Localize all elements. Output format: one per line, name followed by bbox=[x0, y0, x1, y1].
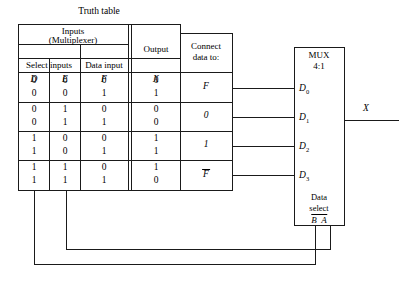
mux-data-input-subscript-3: 3 bbox=[306, 175, 309, 182]
mux-select-label-line1: Data bbox=[311, 193, 327, 202]
diagram-title: Truth table bbox=[78, 7, 120, 17]
cell-d-row1: 0 bbox=[32, 89, 37, 99]
mux-data-input-2: D2 bbox=[299, 142, 309, 153]
cell-f-row5: 1 bbox=[102, 147, 107, 157]
cell-e-row2: 1 bbox=[63, 105, 68, 115]
cell-d-row6: 1 bbox=[32, 163, 37, 173]
cell-x-row1: 1 bbox=[154, 89, 159, 99]
header-inputs-sub: (Multiplexer) bbox=[49, 36, 98, 45]
cell-x-row3: 0 bbox=[154, 118, 159, 128]
mux-data-input-subscript-1: 1 bbox=[306, 117, 309, 124]
cell-f-row1: 1 bbox=[102, 89, 107, 99]
cell-x-row2: 0 bbox=[154, 105, 159, 115]
cell-e-row5: 0 bbox=[63, 147, 68, 157]
connect-value-1: 0 bbox=[204, 111, 209, 121]
cell-x-row0: 0 bbox=[154, 76, 159, 86]
cell-d-row2: 0 bbox=[32, 105, 37, 115]
mux-output-label: X bbox=[363, 104, 369, 114]
cell-e-row1: 0 bbox=[63, 89, 68, 99]
cell-f-row0: 0 bbox=[102, 76, 107, 86]
mux-select-bus-inner: B A bbox=[311, 214, 327, 225]
mux-select-label-line2: select bbox=[309, 204, 328, 213]
header-connect: Connect bbox=[191, 42, 221, 51]
mux-data-input-subscript-2: 2 bbox=[306, 146, 309, 153]
cell-f-row4: 0 bbox=[102, 134, 107, 144]
header-data-input: Data input bbox=[85, 61, 123, 70]
overbar-3: F bbox=[202, 169, 210, 180]
connect-value-0: F bbox=[203, 82, 209, 92]
cell-d-row3: 0 bbox=[32, 118, 37, 128]
mux-data-input-0: D0 bbox=[299, 84, 309, 95]
cell-e-row4: 0 bbox=[63, 134, 68, 144]
header-output: Output bbox=[143, 45, 168, 54]
cell-d-row4: 1 bbox=[32, 134, 37, 144]
cell-e-row7: 1 bbox=[63, 176, 68, 186]
connect-value-3: F bbox=[202, 169, 210, 180]
cell-x-row5: 1 bbox=[154, 147, 159, 157]
mux-select-bus: B A bbox=[311, 214, 327, 225]
cell-e-row0: 0 bbox=[63, 76, 68, 86]
header-select-inputs: Select inputs bbox=[26, 61, 72, 70]
cell-d-row0: 0 bbox=[32, 76, 37, 86]
mux-ratio: 4:1 bbox=[313, 62, 325, 71]
cell-f-row7: 1 bbox=[102, 176, 107, 186]
cell-f-row6: 0 bbox=[102, 163, 107, 173]
cell-f-row2: 0 bbox=[102, 105, 107, 115]
cell-x-row6: 1 bbox=[154, 163, 159, 173]
mux-data-input-1: D1 bbox=[299, 113, 309, 124]
cell-x-row4: 1 bbox=[154, 134, 159, 144]
mux-select-signal-a: A bbox=[321, 215, 327, 225]
connect-value-2: 1 bbox=[204, 140, 209, 150]
select-routing-wires bbox=[35, 191, 331, 265]
cell-d-row7: 1 bbox=[32, 176, 37, 186]
mux-name: MUX bbox=[308, 51, 329, 60]
mux-select-signal-b: B bbox=[311, 215, 317, 225]
mux-data-input-3: D3 bbox=[299, 171, 309, 182]
cell-d-row5: 1 bbox=[32, 147, 37, 157]
cell-x-row7: 0 bbox=[154, 176, 159, 186]
diagram-root: Truth table Inputs (Multiplexer) Output … bbox=[0, 0, 401, 284]
cell-f-row3: 1 bbox=[102, 118, 107, 128]
data-input-wires bbox=[233, 89, 295, 176]
cell-e-row3: 1 bbox=[63, 118, 68, 128]
cell-e-row6: 1 bbox=[63, 163, 68, 173]
header-connect-sub: data to: bbox=[193, 53, 220, 62]
mux-data-input-subscript-0: 0 bbox=[306, 88, 309, 95]
